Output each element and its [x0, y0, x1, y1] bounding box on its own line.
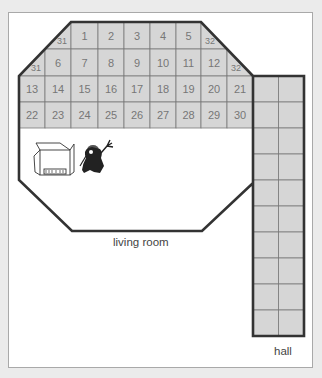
tile-number: 5: [185, 30, 191, 42]
tile-number: 7: [81, 57, 87, 69]
tile-number: 11: [183, 57, 194, 69]
hall-tile: [279, 76, 305, 102]
tile-number: 31: [31, 63, 41, 73]
tile-number: 14: [52, 83, 64, 95]
hall-tile: [253, 128, 279, 154]
box-icon: [34, 143, 74, 175]
hall-tile: [279, 258, 305, 284]
tile-number: 29: [208, 109, 220, 121]
tile-number: 2: [108, 30, 114, 42]
hall-tile: [253, 180, 279, 206]
tile-number: 10: [157, 57, 169, 69]
hall-tile: [279, 310, 305, 336]
tile-number: 20: [208, 83, 220, 95]
tile-number: 28: [182, 109, 194, 121]
tile-number: 9: [134, 57, 140, 69]
hall-tiles: [253, 76, 304, 336]
tile-number: 31: [57, 36, 67, 46]
hall-tile: [253, 102, 279, 128]
hall-tile: [253, 76, 279, 102]
tile-number: 6: [55, 57, 61, 69]
hall-label: hall: [274, 345, 292, 357]
hall-tile: [279, 102, 305, 128]
tile-number: 30: [234, 109, 246, 121]
tile-number: 15: [78, 83, 90, 95]
hall-tile: [279, 128, 305, 154]
tile-number: 19: [182, 83, 194, 95]
tile-number: 4: [160, 30, 166, 42]
hall-tile: [253, 206, 279, 232]
tile-number: 22: [26, 109, 38, 121]
tile-number: 25: [105, 109, 117, 121]
tile-number: 24: [78, 109, 90, 121]
hall-tile: [279, 154, 305, 180]
tile-number: 32: [231, 63, 241, 73]
tile-number: 18: [157, 83, 169, 95]
tile-number: 1: [81, 30, 87, 42]
gnome-worker-icon: [80, 140, 113, 173]
tile-number: 13: [26, 83, 38, 95]
hall-tile: [253, 310, 279, 336]
tile-number: 3: [134, 30, 140, 42]
hall-tile: [253, 154, 279, 180]
hall-tile: [279, 180, 305, 206]
tile-number: 17: [131, 83, 143, 95]
tile-number: 8: [108, 57, 114, 69]
tile-number: 32: [205, 36, 215, 46]
tile-number: 27: [157, 109, 169, 121]
hall-tile: [253, 232, 279, 258]
tile-number: 23: [52, 109, 64, 121]
hall-tile: [279, 232, 305, 258]
hall-tile: [279, 284, 305, 310]
living-room-label: living room: [113, 236, 169, 248]
hall-tile: [279, 206, 305, 232]
tile-number: 26: [131, 109, 143, 121]
tile-number: 12: [208, 57, 220, 69]
floor-plan: 3112345323167891011123213141516171819202…: [0, 0, 322, 378]
hall-tile: [253, 258, 279, 284]
tile-number: 21: [234, 83, 246, 95]
tile-number: 16: [105, 83, 117, 95]
hall-tile: [253, 284, 279, 310]
